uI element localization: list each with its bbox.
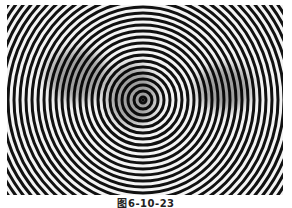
interference-pattern-image [7,5,283,195]
figure-caption: 图6-10-23 [0,195,292,208]
faint-shape-center [107,65,157,125]
faint-shape-left [47,50,107,100]
faint-shape-right [197,65,252,110]
